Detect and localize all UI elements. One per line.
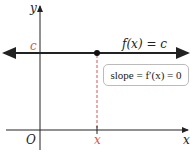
function-label: f(x) = c (122, 38, 167, 50)
point-marker (94, 50, 100, 56)
y-axis-label: y (30, 2, 37, 14)
c-label: c (30, 40, 37, 52)
x-tick-label: x (94, 134, 101, 146)
origin-label: O (26, 134, 36, 146)
slope-box: slope = f′(x) = 0 (103, 64, 189, 86)
x-axis-label: x (183, 134, 190, 146)
